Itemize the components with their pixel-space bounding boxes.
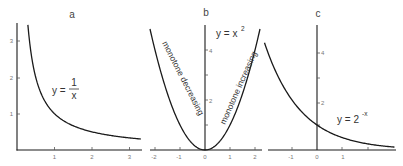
svg-text:-x: -x — [362, 110, 368, 117]
panel-c-curve-exponential — [265, 43, 395, 147]
panel-b-equation: y = x 2 — [216, 25, 245, 39]
panel-c-xtick: -1 — [288, 154, 294, 160]
panel-c-xtick: 1 — [341, 154, 345, 160]
panel-b-label: b — [203, 7, 209, 18]
svg-text:y =: y = — [52, 85, 66, 96]
panel-b-xtick: 1 — [228, 154, 232, 160]
panel-a-ytick: 3 — [10, 38, 14, 44]
panel-a-xtick: 2 — [90, 154, 94, 160]
panel-a-xtick: 3 — [128, 154, 132, 160]
monotone-increasing-label: monotone increasing — [218, 49, 259, 125]
monotone-decreasing-label: monotone decreasing — [160, 39, 206, 117]
panel-c-equation: y = 2 -x — [337, 110, 368, 125]
panel-c-ytick: 4 — [321, 50, 325, 56]
panel-b-ytick: 4 — [209, 48, 213, 54]
svg-text:x: x — [72, 90, 77, 101]
panel-a-ytick: 2 — [10, 75, 14, 81]
svg-text:y = x: y = x — [216, 28, 237, 39]
panel-a: a 1 2 3 1 2 3 y = 1 x — [10, 9, 142, 160]
panel-a-label: a — [69, 9, 75, 20]
panel-a-curve-reciprocal — [28, 25, 141, 139]
svg-text:2: 2 — [241, 25, 245, 32]
svg-text:y = 2: y = 2 — [337, 114, 359, 125]
panel-a-ytick: 1 — [10, 111, 14, 117]
panel-b-xtick: -1 — [176, 154, 182, 160]
panel-a-xtick: 1 — [53, 154, 57, 160]
panel-b-xtick: -2 — [151, 154, 157, 160]
panel-b-xtick: 0 — [203, 154, 207, 160]
function-graphs-figure: a 1 2 3 1 2 3 y = 1 x b 2 — [0, 0, 403, 166]
panel-c: c 2 4 -1 0 1 y = 2 -x — [265, 8, 397, 160]
panel-b-xtick: 2 — [253, 154, 257, 160]
panel-a-equation: y = 1 x — [52, 77, 79, 101]
panel-c-ytick: 2 — [321, 100, 325, 106]
panel-b: b 2 4 -2 -1 0 1 2 y = x 2 monotone decre… — [150, 7, 262, 160]
panel-c-xtick: 0 — [315, 154, 319, 160]
svg-text:1: 1 — [71, 77, 77, 88]
panel-c-label: c — [316, 8, 321, 19]
panel-b-ytick: 2 — [209, 98, 213, 104]
